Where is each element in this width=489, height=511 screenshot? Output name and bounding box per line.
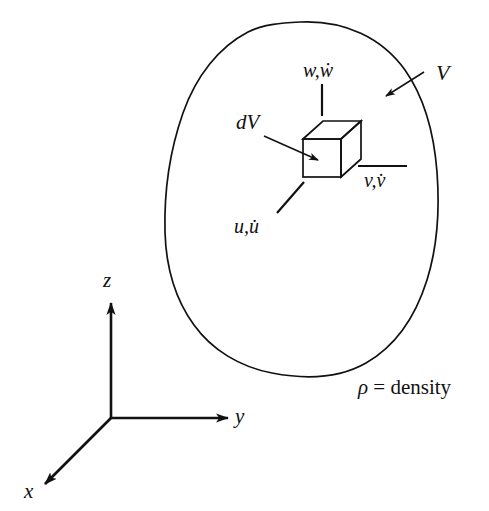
- density-equals: =: [368, 375, 390, 399]
- density-annotation: ρ = density: [358, 377, 451, 398]
- continuum-body-figure: V dV w,ẇ v,v̇ u,u̇ z y x ρ = density: [0, 0, 489, 511]
- v-velocity-label: v,v̇: [364, 170, 385, 190]
- x-axis-label: x: [24, 481, 33, 502]
- dv-label: dV: [236, 112, 259, 133]
- u-velocity-label: u,u̇: [234, 216, 259, 236]
- rho-symbol: ρ: [358, 375, 368, 399]
- x-axis-line: [45, 418, 111, 484]
- density-text: density: [390, 375, 451, 399]
- figure-canvas: [0, 0, 489, 511]
- volume-outline-path: [165, 22, 438, 377]
- cube-front-face: [303, 139, 341, 177]
- cube-right-face: [341, 121, 361, 177]
- y-axis-label: y: [235, 406, 244, 427]
- cube-top-face: [303, 121, 361, 139]
- z-axis-label: z: [103, 270, 111, 291]
- w-velocity-label: w,ẇ: [303, 60, 333, 80]
- volume-label: V: [436, 62, 449, 84]
- u-velocity-leader: [277, 182, 304, 213]
